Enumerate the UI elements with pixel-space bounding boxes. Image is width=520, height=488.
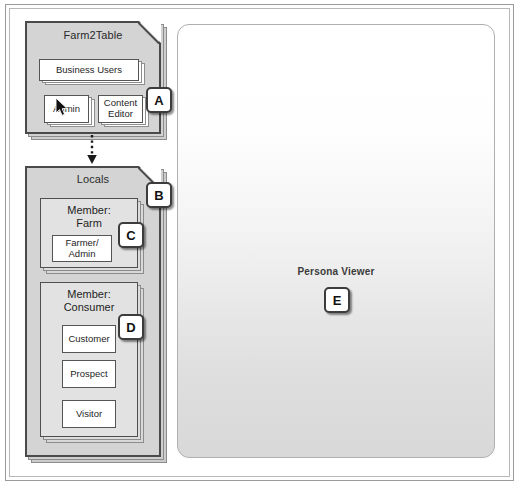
screenshot-root: Farm2Table Business Users Admin Content … [0,0,520,488]
customer-card[interactable]: Customer [62,325,116,353]
business-users-card[interactable]: Business Users [39,59,139,81]
member-consumer-title: Member: Consumer [41,288,137,314]
content-editor-card[interactable]: Content Editor [98,95,143,123]
member-farm-title-line1: Member: [41,204,137,217]
member-consumer-title-line1: Member: [41,288,137,301]
annotation-badge-d-label: D [126,320,135,335]
annotation-badge-e-label: E [333,293,342,308]
farmer-admin-card[interactable]: Farmer/ Admin [52,235,112,262]
visitor-label: Visitor [76,409,102,420]
annotation-badge-c-label: C [126,228,135,243]
connector-arrow [84,134,100,166]
annotation-badge-b-label: B [154,188,163,203]
persona-viewer-label: Persona Viewer [178,266,494,277]
business-users-label: Business Users [56,65,122,76]
persona-viewer-panel[interactable]: Persona Viewer E [177,24,495,458]
annotation-badge-c[interactable]: C [118,222,144,248]
farm2table-title: Farm2Table [27,29,159,41]
prospect-card[interactable]: Prospect [62,360,116,388]
content-editor-label-line2: Editor [108,109,133,120]
annotation-badge-e[interactable]: E [324,287,350,313]
annotation-badge-a[interactable]: A [146,87,172,113]
customer-label: Customer [68,334,109,345]
visitor-card[interactable]: Visitor [62,400,116,428]
annotation-badge-d[interactable]: D [118,314,144,340]
mouse-pointer-icon [55,97,69,117]
prospect-label: Prospect [70,369,108,380]
farmer-admin-label-line2: Admin [69,249,96,260]
annotation-badge-a-label: A [154,93,163,108]
farmer-admin-label-line1: Farmer/ [65,238,98,249]
member-consumer-title-line2: Consumer [41,301,137,314]
annotation-badge-b[interactable]: B [146,182,172,208]
locals-title: Locals [27,173,159,185]
